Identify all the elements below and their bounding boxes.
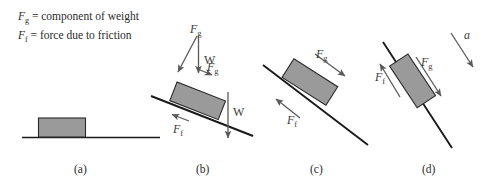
panel-letter-c: (c) — [310, 163, 323, 175]
panel-letter-a: (a) — [74, 163, 87, 175]
arrow-ff-b — [172, 115, 189, 122]
label-acceleration-d: a — [464, 28, 470, 43]
panel-c — [263, 54, 368, 145]
physics-figure: Fg = component of weight Ff = force due … — [0, 0, 493, 182]
label-weight-vertical-b: W — [233, 105, 244, 120]
label-ff-d: Ff — [375, 70, 385, 86]
label-fg-upper-b: Fg — [190, 22, 202, 38]
arrow-fg-upper-b — [178, 36, 197, 72]
label-fg-d: Fg — [421, 55, 433, 71]
block-a — [39, 118, 86, 137]
panel-letter-d: (d) — [422, 163, 435, 175]
label-fg-slope-b: Fg — [207, 60, 219, 76]
figure-artwork — [0, 0, 493, 182]
panel-letter-b: (b) — [196, 163, 209, 175]
panel-d — [380, 33, 473, 148]
label-fg-c: Fg — [316, 47, 328, 63]
label-ff-b: Ff — [173, 122, 183, 138]
panel-a — [22, 118, 160, 138]
label-ff-c: Ff — [287, 113, 297, 129]
block-c — [282, 59, 338, 105]
panel-b — [151, 36, 253, 138]
